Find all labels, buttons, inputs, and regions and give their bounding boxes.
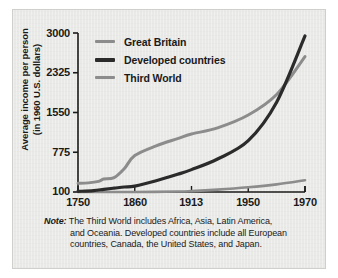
y-axis-title-line2: (in 1960 U.S. dollars) bbox=[30, 44, 41, 135]
x-tick-label-1750: 1750 bbox=[55, 196, 101, 208]
note-line-3: countries, Canada, the United States, an… bbox=[44, 239, 302, 251]
chart-note: Note: The Third World includes Africa, A… bbox=[44, 216, 302, 251]
y-axis-title: Average income per person (in 1960 U.S. … bbox=[19, 20, 42, 160]
note-text-1: The Third World includes Africa, Asia, L… bbox=[69, 216, 272, 226]
note-label: Note: bbox=[44, 216, 67, 226]
note-line-1: Note: The Third World includes Africa, A… bbox=[44, 216, 302, 228]
x-tick-label-1913: 1913 bbox=[168, 196, 214, 208]
x-tick-label-1950: 1950 bbox=[225, 196, 271, 208]
y-axis-title-line1: Average income per person bbox=[19, 28, 30, 150]
legend-label-great-britain: Great Britain bbox=[124, 36, 186, 48]
note-line-2: and Oceania. Developed countries include… bbox=[44, 228, 302, 240]
chart-legend: Great Britain Developed countries Third … bbox=[95, 34, 225, 88]
legend-swatch-developed-countries bbox=[95, 58, 115, 62]
x-tick-label-1970: 1970 bbox=[282, 196, 328, 208]
legend-label-developed-countries: Developed countries bbox=[124, 54, 225, 66]
legend-swatch-great-britain bbox=[95, 40, 115, 43]
screenshot-root: 3000 2325 1550 775 100 1750 1860 1913 19… bbox=[0, 0, 338, 278]
legend-label-third-world: Third World bbox=[124, 72, 182, 84]
x-tick-label-1860: 1860 bbox=[112, 196, 158, 208]
legend-swatch-third-world bbox=[95, 76, 115, 79]
legend-item-third-world: Third World bbox=[95, 70, 225, 85]
legend-item-developed-countries: Developed countries bbox=[95, 52, 225, 67]
legend-item-great-britain: Great Britain bbox=[95, 34, 225, 49]
chart-plot-area: 3000 2325 1550 775 100 1750 1860 1913 19… bbox=[0, 0, 338, 278]
